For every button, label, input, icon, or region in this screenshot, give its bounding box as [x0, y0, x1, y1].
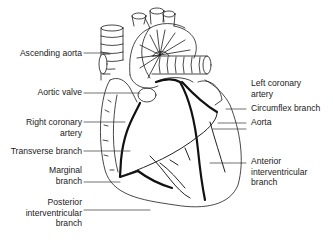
label-right-coronary-artery: Right coronary artery — [26, 117, 82, 138]
label-text: artery — [251, 89, 301, 100]
label-text: interventricular — [26, 208, 82, 219]
label-anterior-interventricular-branch: Anterior interventricular branch — [251, 156, 307, 188]
coronary-branches — [125, 112, 225, 198]
label-text: Marginal — [49, 165, 82, 176]
label-text: Transverse branch — [11, 146, 82, 156]
label-text: interventricular — [251, 167, 307, 178]
label-text: branch — [26, 218, 82, 229]
label-text: Ascending aorta — [20, 48, 82, 58]
ascending-aorta-vessel — [99, 25, 123, 80]
aortic-arch — [130, 8, 197, 88]
label-marginal-branch: Marginal branch — [49, 165, 82, 186]
label-text: Aortic valve — [38, 87, 82, 97]
label-text: branch — [49, 176, 82, 187]
heart-coronary-diagram: Ascending aorta Aortic valve Right coron… — [0, 0, 333, 240]
label-text: Circumflex branch — [251, 103, 320, 113]
label-text: Right coronary — [26, 117, 82, 128]
label-text: Anterior — [251, 156, 307, 167]
label-text: Aorta — [251, 117, 272, 127]
label-text: branch — [251, 177, 307, 188]
label-left-coronary-artery: Left coronary artery — [251, 78, 301, 99]
label-ascending-aorta: Ascending aorta — [20, 48, 82, 59]
label-circumflex-branch: Circumflex branch — [251, 103, 320, 114]
label-text: Left coronary — [251, 78, 301, 89]
pulmonary-trunk — [152, 56, 211, 74]
label-aortic-valve: Aortic valve — [38, 87, 82, 98]
label-text: artery — [26, 128, 82, 139]
label-text: Posterior — [26, 197, 82, 208]
label-aorta: Aorta — [251, 117, 272, 128]
label-transverse-branch: Transverse branch — [11, 146, 82, 157]
label-posterior-interventricular-branch: Posterior interventricular branch — [26, 197, 82, 229]
